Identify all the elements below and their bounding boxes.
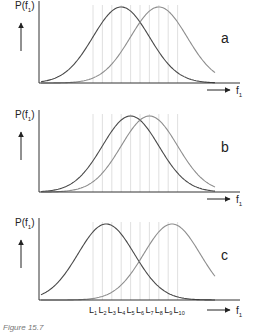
panel-label: a: [221, 30, 229, 46]
panel-c: P(f1)f1cL1L2L3L4L5L6L7L8L9L10: [15, 217, 243, 318]
curve-light-c: [41, 224, 215, 300]
curve-dark-a: [41, 7, 215, 83]
panel-a: P(f1)f1a: [15, 0, 243, 98]
panel-b: P(f1)f1b: [15, 109, 243, 207]
level-label-L9: L9: [164, 305, 172, 316]
x-axis-label: f1: [236, 305, 243, 318]
level-label-L2: L2: [98, 305, 106, 316]
y-axis-label: P(f1): [15, 0, 35, 13]
x-axis-label: f1: [236, 85, 243, 98]
figure-canvas: P(f1)f1aP(f1)f1bP(f1)f1cL1L2L3L4L5L6L7L8…: [0, 0, 258, 336]
level-label-L4: L4: [117, 305, 125, 316]
level-label-L8: L8: [155, 305, 163, 316]
x-axis-label: f1: [236, 194, 243, 207]
level-label-L6: L6: [136, 305, 144, 316]
level-label-L7: L7: [145, 305, 153, 316]
panel-label: b: [221, 139, 229, 155]
curve-light-b: [41, 116, 215, 192]
level-label-L1: L1: [89, 305, 97, 316]
figure-caption: Figure 15.7: [3, 323, 43, 332]
curve-dark-b: [41, 116, 215, 191]
y-axis-label: P(f1): [15, 109, 35, 122]
panel-label: c: [221, 247, 228, 263]
level-label-L10: L10: [174, 305, 185, 316]
level-label-L5: L5: [127, 305, 135, 316]
y-axis-label: P(f1): [15, 217, 35, 230]
curve-dark-c: [41, 224, 215, 300]
level-label-L3: L3: [108, 305, 116, 316]
